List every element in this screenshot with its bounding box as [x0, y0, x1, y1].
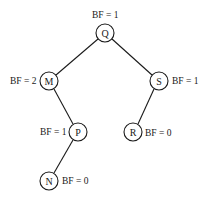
- edge-q-m: [56, 39, 98, 75]
- node-q-label: Q: [101, 28, 109, 39]
- bf-m-label: BF = 2: [10, 76, 37, 86]
- bf-r-label: BF = 0: [145, 128, 172, 138]
- node-s: S: [150, 72, 168, 90]
- bf-q-label: BF = 1: [92, 10, 119, 20]
- node-q: Q: [96, 24, 114, 42]
- node-r: R: [124, 123, 142, 141]
- edge-s-r: [138, 89, 154, 124]
- node-n: N: [40, 172, 58, 190]
- node-m-label: M: [45, 76, 54, 87]
- node-p-label: P: [75, 127, 81, 138]
- node-r-label: R: [130, 127, 137, 138]
- bf-n-label: BF = 0: [62, 176, 89, 186]
- bf-s-label: BF = 1: [172, 76, 199, 86]
- edge-q-s: [112, 39, 152, 75]
- bf-p-label: BF = 1: [40, 127, 67, 137]
- node-s-label: S: [156, 76, 162, 87]
- node-n-label: N: [45, 176, 52, 187]
- edge-p-n: [54, 140, 73, 173]
- node-p: P: [69, 123, 87, 141]
- edge-m-p: [54, 89, 73, 124]
- node-m: M: [40, 72, 58, 90]
- avl-tree-diagram: Q BF = 1 M BF = 2 S BF = 1 P BF = 1 R BF…: [0, 0, 207, 200]
